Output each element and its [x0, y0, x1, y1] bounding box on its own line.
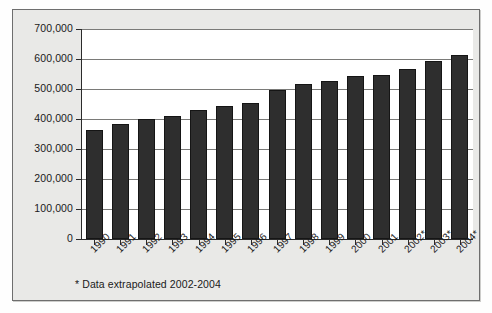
bar: [242, 103, 259, 240]
y-tick-mark: [76, 149, 82, 150]
y-tick-label: 100,000: [15, 202, 73, 214]
y-tick-label: 600,000: [15, 52, 73, 64]
y-tick-label: 400,000: [15, 112, 73, 124]
bar: [347, 76, 364, 239]
bar: [399, 69, 416, 239]
y-tick-mark: [76, 29, 82, 30]
bar: [425, 61, 442, 240]
bar-series: [81, 29, 473, 239]
bar: [190, 110, 207, 239]
y-tick-mark: [76, 179, 82, 180]
chart-footnote: * Data extrapolated 2002-2004: [75, 278, 221, 290]
bar: [164, 116, 181, 239]
bar: [321, 81, 338, 239]
y-tick-mark: [76, 59, 82, 60]
bar: [138, 119, 155, 239]
bar: [451, 55, 468, 240]
bar: [269, 90, 286, 239]
y-tick-mark: [76, 119, 82, 120]
y-tick-mark: [76, 89, 82, 90]
chart-figure: 0100,000200,000300,000400,000500,000600,…: [0, 0, 492, 313]
y-tick-label: 200,000: [15, 172, 73, 184]
y-tick-label: 300,000: [15, 142, 73, 154]
bar: [86, 130, 103, 240]
y-tick-mark: [76, 209, 82, 210]
y-tick-label: 0: [15, 232, 73, 244]
bar: [112, 124, 129, 239]
y-axis-labels: 0100,000200,000300,000400,000500,000600,…: [13, 10, 73, 302]
y-tick-mark: [76, 239, 82, 240]
bar: [216, 106, 233, 240]
y-tick-label: 500,000: [15, 82, 73, 94]
bar: [373, 75, 390, 239]
y-tick-label: 700,000: [15, 22, 73, 34]
bar: [295, 84, 312, 239]
chart-panel: 0100,000200,000300,000400,000500,000600,…: [12, 9, 480, 301]
